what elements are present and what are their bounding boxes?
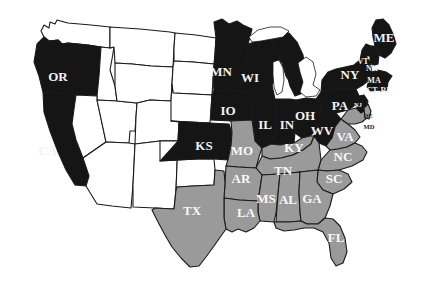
label-ny: NY (341, 67, 360, 82)
label-va: VA (336, 129, 354, 144)
label-tx: TX (183, 203, 202, 218)
label-wi: WI (241, 70, 259, 85)
state-or[interactable] (34, 37, 101, 96)
us-map-svg: OR CA KS TX MN IO MO AR LA WI IL IN KY T… (0, 0, 423, 293)
us-choropleth-map: OR CA KS TX MN IO MO AR LA WI IL IN KY T… (0, 0, 423, 293)
state-wy[interactable] (115, 63, 173, 103)
state-mt[interactable] (110, 27, 175, 67)
label-md: MD (364, 123, 375, 130)
label-il: IL (258, 117, 272, 132)
label-ca: CA (39, 143, 58, 158)
label-or: OR (48, 69, 68, 84)
label-tn: TN (274, 163, 293, 178)
state-nd[interactable] (174, 33, 216, 64)
label-ri: RI (381, 86, 390, 95)
label-sc: SC (326, 171, 343, 186)
state-sd[interactable] (172, 61, 214, 95)
label-nj: NJ (354, 101, 363, 108)
label-wv: WV (311, 123, 334, 138)
label-ky: KY (284, 140, 304, 155)
label-ia: IO (220, 103, 235, 118)
label-de: DE (363, 112, 372, 119)
label-ms: MS (256, 191, 276, 206)
label-mo: MO (231, 143, 253, 158)
label-mn: MN (210, 64, 232, 79)
label-me: ME (374, 30, 395, 45)
label-ma: MA (367, 76, 381, 85)
label-oh: OH (295, 108, 315, 123)
label-ct: CT (366, 86, 378, 95)
label-ks: KS (195, 138, 212, 153)
label-ga: GA (302, 191, 322, 206)
label-ar: AR (232, 171, 251, 186)
label-la: LA (237, 205, 256, 220)
label-in: IN (280, 117, 295, 132)
label-nc: NC (334, 149, 353, 164)
label-pa: PA (332, 98, 349, 113)
label-fl: FL (328, 230, 345, 245)
label-nh: NH (366, 64, 379, 73)
label-al: AL (279, 192, 297, 207)
